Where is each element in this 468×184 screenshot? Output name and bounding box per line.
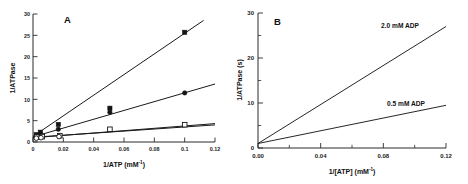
panel-b-xtick-012: 0.12	[440, 153, 452, 159]
panel-b-annotation-2mM: 2.0 mM ADP	[381, 22, 419, 29]
panel-a-y-axis-label: 1/ATPase	[9, 62, 16, 93]
panel-a-ytick-15: 15	[24, 75, 30, 81]
panel-a-x-axis-label: 1/ATP (mM-1)	[103, 160, 145, 169]
panel-a-plot: 0 5 10 15 20 25 30 0 0.02 0.04 0.06 0.08	[0, 0, 234, 184]
panel-b-xlabel-main: 1/[ATP] (mM	[329, 168, 369, 176]
panel-b-ytick-30: 30	[247, 10, 254, 16]
panel-b-xtick-000: 0.00	[252, 153, 264, 159]
figure-container: 0 5 10 15 20 25 30 0 0.02 0.04 0.06 0.08	[0, 0, 468, 184]
panel-a-xlabel-main: 1/ATP (mM	[103, 161, 139, 169]
panel-b-line-2mM-adp	[258, 27, 446, 144]
panel-b-x-ticks	[258, 143, 446, 148]
panel-a-ytick-0: 0	[27, 139, 30, 145]
panel-b-letter: B	[274, 16, 281, 27]
panel-a-xlabel-tail: )	[143, 161, 145, 169]
panel-a-y-ticks	[33, 14, 38, 142]
panel-a-ytick-10: 10	[24, 97, 30, 103]
panel-a-ytick-30: 30	[24, 11, 30, 17]
panel-a-line-filled-square	[33, 20, 204, 136]
panel-b-line-05mM-adp	[258, 105, 446, 143]
panel-b-xtick-004: 0.04	[315, 153, 327, 159]
panel-a-letter: A	[64, 14, 71, 25]
panel-b-y-ticks	[258, 13, 263, 148]
panel-b-xlabel-tail: )	[373, 168, 375, 176]
panel-a-ytick-20: 20	[24, 54, 30, 60]
panel-a-ytick-5: 5	[27, 118, 30, 124]
panel-b-ytick-10: 10	[247, 100, 254, 106]
panel-b-x-axis-label: 1/[ATP] (mM-1)	[329, 167, 376, 176]
svg-text:1/ATP (mM-1): 1/ATP (mM-1)	[103, 160, 145, 169]
svg-text:1/[ATP] (mM-1): 1/[ATP] (mM-1)	[329, 167, 376, 176]
panel-a-xtick-0: 0	[32, 146, 35, 152]
panel-a-xtick-012: 0.12	[210, 146, 221, 152]
panel-b-xtick-008: 0.08	[377, 153, 389, 159]
panel-b-ytick-0: 0	[251, 145, 255, 151]
panel-a: 0 5 10 15 20 25 30 0 0.02 0.04 0.06 0.08	[0, 0, 234, 184]
panel-a-xtick-002: 0.02	[58, 146, 69, 152]
panel-a-xtick-006: 0.06	[119, 146, 130, 152]
panel-b: 0 10 20 30 0.00 0.04 0.08 0.12 B 1/ATPas…	[234, 0, 468, 184]
panel-a-ytick-25: 25	[24, 33, 30, 39]
panel-a-xtick-004: 0.04	[88, 146, 99, 152]
panel-a-xtick-01: 0.1	[181, 146, 189, 152]
panel-b-plot: 0 10 20 30 0.00 0.04 0.08 0.12 B 1/ATPas…	[234, 0, 468, 184]
panel-a-xtick-008: 0.08	[149, 146, 160, 152]
panel-b-ytick-20: 20	[247, 55, 254, 61]
panel-b-y-axis-label: 1/ATPase (s)	[236, 59, 244, 101]
panel-b-annotation-05mM: 0.5 mM ADP	[387, 100, 425, 107]
